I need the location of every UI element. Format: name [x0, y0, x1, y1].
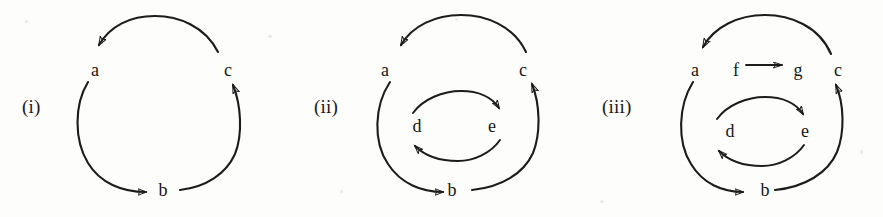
node-b: b: [761, 181, 770, 199]
node-a: a: [381, 61, 389, 79]
panel-ii-arcs: [300, 0, 590, 217]
edge-e-to-d: [415, 140, 500, 161]
node-c: c: [224, 61, 232, 79]
node-a: a: [691, 61, 699, 79]
edge-e-to-d: [719, 145, 804, 166]
edge-b-to-c: [180, 85, 240, 190]
node-f: f: [733, 61, 739, 79]
node-e: e: [801, 122, 809, 140]
node-g: g: [794, 61, 803, 79]
panel-iii: (iii): [590, 0, 883, 217]
node-e: e: [488, 117, 496, 135]
node-a: a: [91, 61, 99, 79]
edge-d-to-e: [413, 91, 499, 113]
panel-i: (i) a c b: [0, 0, 300, 217]
edge-c-to-a: [401, 15, 526, 52]
panel-iii-arcs: [590, 0, 883, 217]
node-d: d: [726, 122, 735, 140]
panel-i-arcs: [0, 0, 300, 217]
node-b: b: [159, 181, 168, 199]
edge-d-to-e: [717, 97, 803, 119]
node-b: b: [448, 181, 457, 199]
node-c: c: [834, 61, 842, 79]
edge-a-to-b: [377, 82, 443, 192]
edge-c-to-a: [703, 15, 831, 54]
edge-b-to-c: [472, 84, 539, 190]
figure-root: (i) a c b (ii): [0, 0, 883, 217]
edge-a-to-b: [78, 82, 147, 192]
panel-ii: (ii) a c b d e: [300, 0, 590, 217]
edge-c-to-a: [99, 16, 218, 52]
node-d: d: [413, 117, 422, 135]
node-c: c: [519, 61, 527, 79]
